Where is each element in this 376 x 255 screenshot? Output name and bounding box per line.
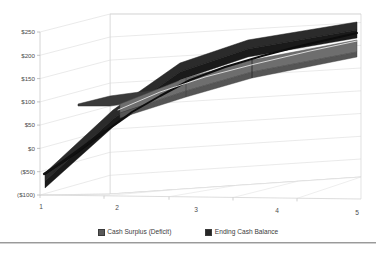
y-tick-label: ($100) bbox=[17, 191, 35, 198]
legend-swatch-icon bbox=[205, 229, 212, 236]
y-tick-label: $50 bbox=[25, 121, 36, 128]
chart-container: $250 $200 $150 $100 $50 $0 ($50) ($100) … bbox=[0, 0, 376, 255]
legend-label: Cash Surplus (Deficit) bbox=[107, 229, 171, 236]
bottom-frame-rule bbox=[0, 242, 376, 244]
x-axis-labels: 1 2 3 4 5 bbox=[39, 203, 359, 216]
legend-label: Ending Cash Balance bbox=[215, 229, 278, 236]
legend-item-ending-cash-balance[interactable]: Ending Cash Balance bbox=[205, 229, 278, 236]
y-tick-label: $200 bbox=[21, 52, 35, 59]
x-tick-label: 2 bbox=[115, 204, 119, 211]
y-tick-label: $0 bbox=[28, 145, 35, 152]
y-axis-labels: $250 $200 $150 $100 $50 $0 ($50) ($100) bbox=[17, 28, 35, 198]
x-tick-label: 1 bbox=[39, 203, 43, 210]
chart-3d-surface: $250 $200 $150 $100 $50 $0 ($50) ($100) … bbox=[0, 0, 376, 255]
y-axis-ticks bbox=[37, 32, 40, 195]
y-tick-label: $100 bbox=[21, 98, 35, 105]
y-tick-label: ($50) bbox=[21, 168, 35, 175]
x-tick-label: 3 bbox=[194, 206, 198, 213]
chart-legend: Cash Surplus (Deficit) Ending Cash Balan… bbox=[0, 226, 376, 238]
y-tick-label: $250 bbox=[21, 28, 35, 35]
y-tick-label: $150 bbox=[21, 75, 35, 82]
x-tick-label: 4 bbox=[275, 207, 279, 214]
legend-item-cash-surplus-deficit[interactable]: Cash Surplus (Deficit) bbox=[98, 229, 172, 236]
x-tick-label: 5 bbox=[355, 209, 359, 216]
legend-swatch-icon bbox=[98, 229, 105, 236]
